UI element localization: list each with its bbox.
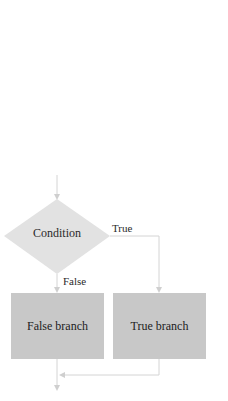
false-edge-label: False [63, 275, 86, 287]
true-edge-label: True [112, 222, 132, 234]
false-branch-label: False branch [27, 319, 88, 334]
flowchart: Condition True False False branch True b… [0, 0, 228, 401]
merge-edge [62, 359, 159, 375]
true-branch-box: True branch [113, 293, 206, 359]
true-edge [110, 236, 159, 290]
condition-label: Condition [4, 226, 110, 241]
true-branch-label: True branch [131, 319, 189, 334]
false-branch-box: False branch [11, 293, 104, 359]
